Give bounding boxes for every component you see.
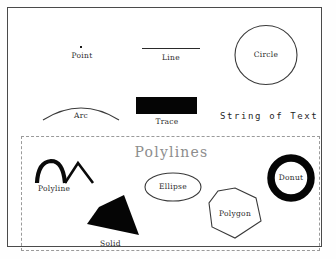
- trace-label: Trace: [144, 118, 190, 126]
- polyline-label: Polyline: [38, 185, 70, 193]
- solid-shape: [82, 194, 144, 240]
- drawing-canvas: Point Line Circle Arc Trace String of Te…: [0, 0, 336, 259]
- donut-label: Donut: [269, 174, 313, 182]
- ellipse-label: Ellipse: [151, 183, 195, 191]
- outer-frame: Point Line Circle Arc Trace String of Te…: [7, 7, 322, 247]
- point-shape: [80, 46, 82, 48]
- trace-shape: [136, 97, 197, 114]
- arc-label: Arc: [59, 112, 103, 120]
- polygon-label: Polygon: [213, 210, 257, 218]
- polylines-group: Polylines Polyline Ellipse Donut Solid: [21, 136, 320, 251]
- point-label: Point: [60, 52, 104, 60]
- string-of-text-label: String of Text: [220, 112, 318, 121]
- circle-label: Circle: [244, 51, 288, 59]
- polyline-shape: [35, 157, 97, 185]
- line-label: Line: [149, 54, 193, 62]
- line-shape: [142, 48, 200, 49]
- solid-label: Solid: [100, 240, 121, 248]
